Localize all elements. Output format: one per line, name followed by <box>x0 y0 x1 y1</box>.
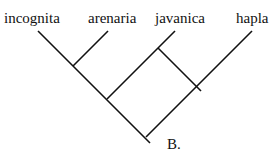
panel-label: B. <box>167 137 181 152</box>
branch-hapla <box>146 31 252 137</box>
branch-incognita <box>38 31 150 143</box>
branch-javanica-hapla <box>158 48 201 91</box>
branch-javanica <box>107 31 175 99</box>
branch-arenaria <box>73 31 108 66</box>
tree-diagram <box>0 0 279 154</box>
